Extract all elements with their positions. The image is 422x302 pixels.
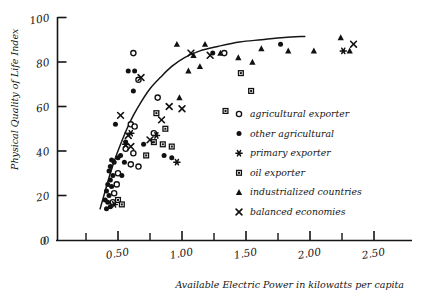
data-point <box>112 160 117 165</box>
data-point <box>159 117 165 123</box>
data-point <box>351 41 357 47</box>
scatter-plot-figure: 020406080100 0.501.001.502.002.500 Physi… <box>0 0 422 302</box>
data-point <box>122 160 127 165</box>
data-point <box>166 104 172 110</box>
data-point <box>223 109 228 114</box>
y-tick-label: 40 <box>34 145 51 159</box>
legend-marker-filled-triangle-icon <box>236 189 242 195</box>
legend-item-primary-exporter[interactable]: primary exporter <box>236 147 331 158</box>
data-point <box>249 59 255 65</box>
data-point <box>160 142 165 147</box>
data-point <box>202 41 208 47</box>
legend-item-agricultural-exporter[interactable]: agricultural exporter <box>236 108 349 119</box>
data-point <box>132 124 137 129</box>
data-point <box>176 94 182 100</box>
data-point <box>107 169 112 174</box>
data-point <box>104 189 109 194</box>
x-tick-label: 1.50 <box>233 245 258 261</box>
y-tick-label: 100 <box>29 11 51 26</box>
data-point <box>119 202 124 207</box>
data-point <box>116 155 121 160</box>
plot-canvas: 020406080100 0.501.001.502.002.500 Physi… <box>0 0 422 302</box>
data-point <box>162 153 167 158</box>
x-tick-label: 1.00 <box>169 245 194 261</box>
x-tick-label: 0.50 <box>105 245 130 261</box>
x-tick-label: 2.50 <box>360 245 386 261</box>
series-oil-exporter <box>116 71 254 207</box>
data-point <box>118 113 124 119</box>
data-point <box>174 41 180 47</box>
data-point <box>169 144 174 149</box>
data-point <box>169 155 174 160</box>
data-point <box>285 48 291 54</box>
data-point <box>110 173 115 178</box>
data-point <box>340 48 346 53</box>
legend-marker-asterisk-icon <box>236 151 242 156</box>
data-point <box>238 71 243 76</box>
legend-marker-filled-circle-icon <box>237 131 242 136</box>
legend-item-label: balanced economies <box>250 206 346 217</box>
data-point <box>179 106 185 112</box>
data-point <box>113 122 118 127</box>
legend-item-balanced-economies[interactable]: balanced economies <box>236 206 346 217</box>
legend-item-label: primary exporter <box>250 147 331 158</box>
data-point <box>128 162 133 167</box>
data-point <box>109 184 114 189</box>
data-point <box>155 95 160 100</box>
x-axis-title: Available Electric Power in kilowatts pe… <box>174 279 404 290</box>
data-point <box>105 200 110 205</box>
data-point <box>278 42 283 47</box>
data-point <box>235 54 241 60</box>
data-point <box>163 126 168 131</box>
data-point <box>136 164 141 169</box>
legend-item-label: other agricultural <box>250 128 334 139</box>
data-point <box>197 63 203 69</box>
data-point <box>131 51 136 56</box>
data-point <box>131 151 136 156</box>
data-point <box>154 111 159 116</box>
data-point <box>128 144 134 150</box>
y-tick-label: 80 <box>35 56 51 70</box>
data-point <box>258 45 264 51</box>
y-axis-tick-labels: 020406080100 <box>29 11 51 247</box>
data-point <box>144 153 149 158</box>
x-tick-label: 2.00 <box>296 245 322 261</box>
data-points-layer <box>103 34 357 211</box>
legend-marker-open-circle-icon <box>236 111 241 116</box>
data-point <box>119 173 124 178</box>
legend: agricultural exporterother agriculturalp… <box>236 108 362 217</box>
data-point <box>338 34 344 40</box>
data-point <box>174 159 180 164</box>
data-point <box>347 48 353 54</box>
data-point <box>108 164 113 169</box>
data-point <box>104 206 109 211</box>
data-point <box>131 88 136 93</box>
data-point <box>112 191 117 196</box>
x-axis-ticks <box>86 231 374 241</box>
legend-marker-cross-icon <box>236 209 242 215</box>
legend-item-other-agricultural[interactable]: other agricultural <box>237 128 335 139</box>
data-point <box>107 193 112 198</box>
series-industrialized-countries <box>174 34 353 100</box>
legend-item-label: industrialized countries <box>250 186 362 197</box>
y-axis-title: Physical Quality of Life Index <box>9 28 20 171</box>
data-point <box>114 182 119 187</box>
data-point <box>249 89 254 94</box>
data-point <box>185 68 191 74</box>
data-point <box>311 48 317 54</box>
data-point <box>108 177 113 182</box>
y-tick-label: 20 <box>34 189 51 203</box>
legend-marker-open-square-icon <box>237 170 242 175</box>
data-point <box>141 142 146 147</box>
legend-item-industrialized-countries[interactable]: industrialized countries <box>236 186 362 197</box>
legend-item-oil-exporter[interactable]: oil exporter <box>237 167 306 178</box>
legend-item-label: oil exporter <box>250 167 305 178</box>
y-axis-ticks <box>58 18 67 196</box>
y-tick-label: 60 <box>35 100 51 114</box>
data-point <box>126 68 131 73</box>
legend-item-label: agricultural exporter <box>250 108 350 119</box>
x-axis-tick-labels: 0.501.001.502.002.500 <box>39 234 386 261</box>
data-point <box>132 68 137 73</box>
